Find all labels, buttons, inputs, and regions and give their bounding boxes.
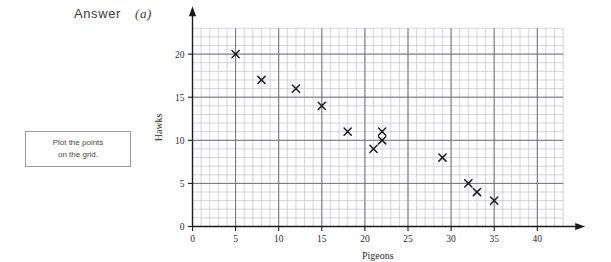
x-tick-label: 40 [533, 234, 543, 244]
y-tick-label: 5 [180, 179, 185, 189]
axis-tick-labels: 051015202530354005101520 [175, 50, 542, 244]
worksheet-page: Answer(a) Plot the points on the grid. 0… [0, 0, 611, 262]
x-tick-label: 20 [360, 234, 370, 244]
x-tick-label: 10 [274, 234, 284, 244]
chart-canvas: 051015202530354005101520 PigeonsHawks [0, 0, 611, 262]
y-tick-label: 15 [175, 93, 185, 103]
x-tick-label: 0 [190, 234, 195, 244]
x-tick-label: 15 [317, 234, 327, 244]
grid-major-lines [193, 28, 564, 226]
x-tick-label: 25 [403, 234, 413, 244]
y-axis-title: Hawks [154, 113, 165, 141]
axis-lines [189, 6, 585, 230]
x-tick-label: 5 [233, 234, 238, 244]
x-axis-title: Pigeons [362, 250, 394, 261]
axis-ticks [188, 54, 537, 231]
x-tick-label: 30 [446, 234, 456, 244]
grid-minor-lines [193, 28, 564, 226]
y-tick-label: 0 [180, 222, 185, 232]
y-tick-label: 10 [175, 136, 185, 146]
x-tick-label: 35 [489, 234, 499, 244]
y-tick-label: 20 [175, 50, 185, 60]
scatter-plot: 051015202530354005101520 PigeonsHawks [0, 0, 611, 262]
